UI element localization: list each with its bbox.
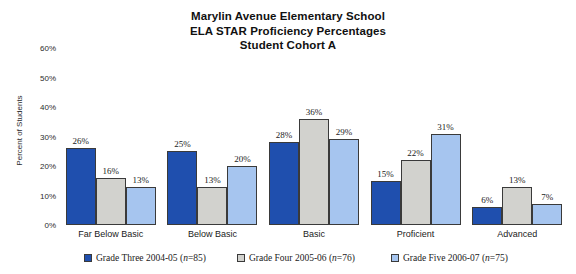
bar-value-label: 13% bbox=[495, 175, 539, 185]
bar-value-label: 20% bbox=[220, 154, 264, 164]
y-axis-tick-labels: 0%10%20%30%40%50%60% bbox=[26, 41, 56, 231]
legend-swatch-icon bbox=[237, 254, 245, 262]
y-axis-tick-60: 60% bbox=[26, 44, 56, 53]
bar[interactable] bbox=[96, 178, 126, 225]
x-axis-category-labels: Far Below BasicBelow BasicBasicProficien… bbox=[60, 229, 568, 243]
chart-title: Marylin Avenue Elementary School ELA STA… bbox=[0, 9, 576, 53]
bar-value-label: 25% bbox=[160, 139, 204, 149]
chart-title-line-2: ELA STAR Proficiency Percentages bbox=[0, 24, 576, 39]
y-axis-tick-50: 50% bbox=[26, 73, 56, 82]
bar[interactable] bbox=[371, 181, 401, 225]
legend-label-n-italic: n bbox=[485, 253, 490, 263]
legend-label-n-italic: n bbox=[332, 253, 337, 263]
legend-label: Grade Three 2004-05 (n=85) bbox=[96, 253, 206, 263]
bar-value-label: 36% bbox=[292, 107, 336, 117]
y-axis-tick-30: 30% bbox=[26, 132, 56, 141]
bar-group-proficient: 15%22%31% bbox=[365, 48, 467, 225]
bar-value-label: 7% bbox=[525, 192, 569, 202]
bar[interactable] bbox=[197, 187, 227, 225]
legend-label: Grade Four 2005-06 (n=76) bbox=[249, 253, 355, 263]
legend-swatch-icon bbox=[391, 254, 399, 262]
bar-value-label: 31% bbox=[424, 122, 468, 132]
bar-group-far-below-basic: 26%16%13% bbox=[60, 48, 162, 225]
bar[interactable] bbox=[66, 148, 96, 225]
bar[interactable] bbox=[532, 204, 562, 225]
bar-value-label: 26% bbox=[59, 136, 103, 146]
bar-value-label: 29% bbox=[322, 127, 366, 137]
plot-area: 26%16%13%25%13%20%28%36%29%15%22%31%6%13… bbox=[60, 48, 568, 225]
legend-item-series-3[interactable]: Grade Five 2006-07 (n=75) bbox=[391, 253, 508, 263]
bar[interactable] bbox=[167, 151, 197, 225]
bar-group-below-basic: 25%13%20% bbox=[162, 48, 264, 225]
chart-title-line-1: Marylin Avenue Elementary School bbox=[0, 9, 576, 24]
y-axis-title: Percent of Students bbox=[15, 71, 24, 191]
legend-label-n-italic: n bbox=[183, 253, 188, 263]
y-axis-tick-10: 10% bbox=[26, 191, 56, 200]
bar-group-advanced: 6%13%7% bbox=[466, 48, 568, 225]
bar-value-label: 13% bbox=[119, 175, 163, 185]
y-axis-tick-40: 40% bbox=[26, 103, 56, 112]
legend-swatch-icon bbox=[84, 254, 92, 262]
legend-item-series-2[interactable]: Grade Four 2005-06 (n=76) bbox=[237, 253, 355, 263]
chart-legend: Grade Three 2004-05 (n=85)Grade Four 200… bbox=[0, 253, 576, 269]
bar[interactable] bbox=[329, 139, 359, 225]
legend-item-series-1[interactable]: Grade Three 2004-05 (n=85) bbox=[84, 253, 206, 263]
legend-label: Grade Five 2006-07 (n=75) bbox=[403, 253, 508, 263]
bar-group-basic: 28%36%29% bbox=[263, 48, 365, 225]
bar[interactable] bbox=[472, 207, 502, 225]
y-axis-tick-20: 20% bbox=[26, 162, 56, 171]
bar[interactable] bbox=[269, 142, 299, 225]
x-axis-label-advanced: Advanced bbox=[457, 229, 576, 239]
bar[interactable] bbox=[126, 187, 156, 225]
bar[interactable] bbox=[227, 166, 257, 225]
bar[interactable] bbox=[401, 160, 431, 225]
bar[interactable] bbox=[431, 134, 461, 225]
